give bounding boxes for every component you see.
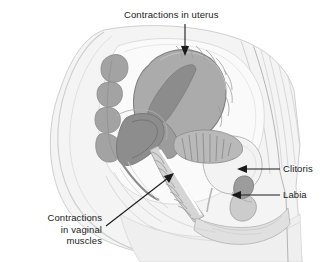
anatomy-figure: Contractions in uterus Clitoris Labia Co… — [0, 0, 321, 262]
label-contractions-in-vaginal-muscles: Contractions in vaginal muscles — [9, 212, 102, 247]
label-labia: Labia — [283, 189, 307, 201]
label-clitoris: Clitoris — [283, 163, 313, 175]
vertebra-1 — [101, 55, 128, 83]
label-contractions-in-uterus: Contractions in uterus — [124, 9, 219, 21]
vertebra-2 — [97, 82, 122, 107]
